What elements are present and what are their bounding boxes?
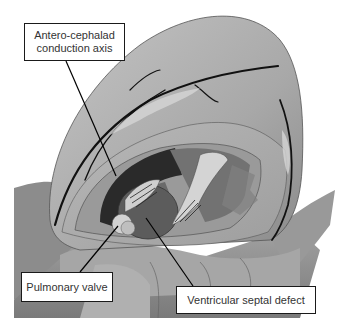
label-antero-cephalad-conduction-axis: Antero-cephalad conduction axis: [24, 23, 125, 61]
label-line-2: conduction axis: [37, 42, 113, 55]
label-ventricular-septal-defect: Ventricular septal defect: [176, 286, 316, 314]
label-text: Pulmonary valve: [26, 281, 107, 294]
label-line-1: Antero-cephalad: [34, 29, 115, 42]
label-text: Ventricular septal defect: [187, 294, 304, 307]
label-pulmonary-valve: Pulmonary valve: [21, 272, 113, 302]
